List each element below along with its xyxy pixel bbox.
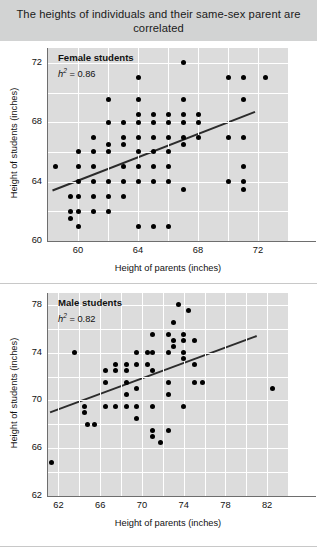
data-point bbox=[151, 179, 156, 184]
data-point bbox=[121, 142, 126, 147]
y-tick-label: 60 bbox=[12, 235, 42, 245]
data-point bbox=[226, 179, 231, 184]
data-point bbox=[181, 60, 186, 65]
data-point bbox=[166, 120, 171, 125]
data-point bbox=[151, 112, 156, 117]
gridline-horizontal-minor bbox=[48, 424, 288, 425]
data-point bbox=[226, 135, 231, 140]
data-point bbox=[91, 135, 96, 140]
data-point bbox=[166, 224, 171, 229]
x-tick-label: 82 bbox=[252, 500, 282, 510]
data-point bbox=[196, 112, 201, 117]
x-tick-label: 68 bbox=[183, 245, 213, 255]
data-point bbox=[76, 209, 81, 214]
gridline-horizontal-minor bbox=[48, 329, 288, 330]
data-point bbox=[181, 338, 186, 343]
data-point bbox=[241, 187, 246, 192]
data-point bbox=[134, 416, 139, 421]
gridline-vertical-minor bbox=[205, 293, 206, 496]
data-point bbox=[53, 164, 58, 169]
y-tick-label: 72 bbox=[12, 57, 42, 67]
data-point bbox=[241, 97, 246, 102]
data-point bbox=[124, 404, 129, 409]
data-point bbox=[226, 75, 231, 80]
data-point bbox=[134, 386, 139, 391]
data-point bbox=[68, 216, 73, 221]
y-tick-label: 64 bbox=[12, 176, 42, 186]
data-point bbox=[171, 338, 176, 343]
data-point bbox=[82, 410, 87, 415]
data-point bbox=[106, 149, 111, 154]
gridline-vertical bbox=[225, 293, 226, 496]
data-point bbox=[181, 112, 186, 117]
data-point bbox=[121, 135, 126, 140]
gridline-vertical bbox=[100, 293, 101, 496]
data-point bbox=[91, 164, 96, 169]
figure-root: The heights of individuals and their sam… bbox=[0, 0, 317, 549]
data-point bbox=[150, 350, 155, 355]
data-point bbox=[158, 440, 163, 445]
heritability-label-male: h2 = 0.82 bbox=[58, 312, 96, 324]
data-point bbox=[76, 224, 81, 229]
gridline-horizontal-minor bbox=[48, 93, 288, 94]
data-point bbox=[171, 344, 176, 349]
data-point bbox=[150, 404, 155, 409]
gridline-vertical bbox=[184, 293, 185, 496]
gridline-vertical-minor bbox=[163, 293, 164, 496]
data-point bbox=[76, 149, 81, 154]
data-point bbox=[241, 179, 246, 184]
data-point bbox=[166, 380, 171, 385]
gridline-vertical-minor bbox=[246, 293, 247, 496]
data-point bbox=[68, 194, 73, 199]
data-point bbox=[186, 308, 191, 313]
data-point bbox=[150, 368, 155, 373]
data-point bbox=[49, 460, 54, 465]
data-point bbox=[181, 142, 186, 147]
data-point bbox=[166, 350, 171, 355]
data-point bbox=[136, 224, 141, 229]
data-point bbox=[181, 120, 186, 125]
data-point bbox=[151, 224, 156, 229]
data-point bbox=[151, 135, 156, 140]
data-point bbox=[136, 149, 141, 154]
data-point bbox=[150, 434, 155, 439]
data-point bbox=[192, 380, 197, 385]
x-tick-label: 66 bbox=[85, 500, 115, 510]
data-point bbox=[121, 179, 126, 184]
chart-panel-male: Height of students (inches) Height of pa… bbox=[0, 286, 317, 546]
data-point bbox=[196, 120, 201, 125]
data-point bbox=[192, 362, 197, 367]
panel-title-male: Male students bbox=[58, 297, 122, 308]
data-point bbox=[106, 120, 111, 125]
data-point bbox=[106, 194, 111, 199]
gridline-vertical-minor bbox=[121, 293, 122, 496]
data-point bbox=[145, 350, 150, 355]
data-point bbox=[176, 302, 181, 307]
data-point bbox=[82, 404, 87, 409]
data-point bbox=[136, 135, 141, 140]
data-point bbox=[151, 120, 156, 125]
data-point bbox=[134, 404, 139, 409]
data-point bbox=[121, 120, 126, 125]
heritability-value: = 0.86 bbox=[67, 69, 96, 79]
data-point bbox=[263, 75, 268, 80]
data-point bbox=[76, 194, 81, 199]
data-point bbox=[166, 428, 171, 433]
panel-divider bbox=[0, 283, 317, 284]
panel-title-female: Female students bbox=[58, 52, 134, 63]
x-axis-line bbox=[47, 241, 316, 242]
gridline-vertical bbox=[142, 293, 143, 496]
data-point bbox=[181, 356, 186, 361]
data-point bbox=[72, 350, 77, 355]
data-point bbox=[200, 380, 205, 385]
data-point bbox=[91, 194, 96, 199]
data-point bbox=[181, 187, 186, 192]
data-point bbox=[124, 362, 129, 367]
y-axis-line bbox=[47, 293, 48, 497]
data-point bbox=[121, 194, 126, 199]
data-point bbox=[92, 422, 97, 427]
x-axis-line bbox=[47, 496, 316, 497]
y-axis-line bbox=[47, 48, 48, 242]
data-point bbox=[91, 209, 96, 214]
data-point bbox=[192, 338, 197, 343]
